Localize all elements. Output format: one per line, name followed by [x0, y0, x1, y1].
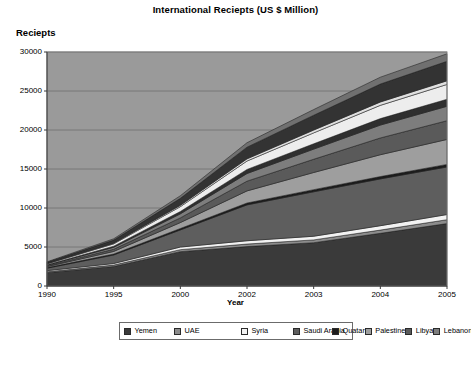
legend-label: Syria	[252, 326, 269, 336]
y-tick-label: 30000	[0, 47, 42, 56]
legend-item[interactable]: Palestine	[365, 326, 406, 336]
chart-container: International Reciepts (US $ Million) Re…	[0, 0, 471, 373]
legend-label: Quatar	[343, 326, 365, 336]
y-tick-label: 25000	[0, 86, 42, 95]
legend-item[interactable]: Lebanon	[433, 326, 471, 336]
legend-swatch-icon	[174, 328, 181, 335]
legend-item[interactable]: Yemen	[124, 326, 174, 336]
legend-item[interactable]: Saudi Arabia	[293, 326, 332, 336]
legend-label: Palestine	[375, 326, 405, 336]
chart-legend: YemenUAESyriaSaudi ArabiaQuatarPalestine…	[119, 322, 353, 340]
y-tick-label: 10000	[0, 203, 42, 212]
legend-swatch-icon	[293, 328, 300, 335]
plot-area	[0, 0, 471, 373]
legend-swatch-icon	[433, 328, 440, 335]
legend-swatch-icon	[405, 328, 412, 335]
y-tick-label: 15000	[0, 164, 42, 173]
legend-item[interactable]: Syria	[241, 326, 293, 336]
legend-label: Yemen	[135, 326, 157, 336]
legend-item[interactable]: Libya	[405, 326, 433, 336]
legend-item[interactable]: UAE	[174, 326, 241, 336]
legend-label: Lebanon	[444, 326, 471, 336]
legend-label: UAE	[185, 326, 200, 336]
legend-swatch-icon	[124, 328, 131, 335]
legend-item[interactable]: Quatar	[332, 326, 365, 336]
legend-swatch-icon	[365, 328, 372, 335]
x-axis-title: Year	[0, 298, 471, 307]
y-tick-label: 20000	[0, 125, 42, 134]
legend-label: Libya	[416, 326, 433, 336]
y-tick-label: 5000	[0, 242, 42, 251]
legend-swatch-icon	[332, 328, 339, 335]
legend-swatch-icon	[241, 328, 248, 335]
y-tick-label: 0	[0, 281, 42, 290]
